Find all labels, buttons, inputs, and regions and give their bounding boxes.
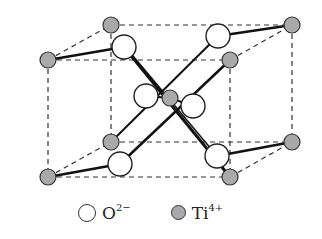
crystal-structure-diagram: [0, 0, 322, 200]
ti-atom: [222, 52, 238, 68]
legend-item-titanium: Ti4+: [171, 202, 224, 223]
o-atom: [134, 84, 158, 108]
o-atom: [181, 94, 205, 118]
ti-atom: [103, 17, 119, 33]
titanium-circle-icon: [171, 205, 186, 220]
o-atom: [112, 35, 136, 59]
oxygen-circle-icon: [78, 204, 96, 222]
o-atom: [205, 144, 229, 168]
ti-atom: [103, 134, 119, 150]
ti-atom-center: [162, 90, 178, 106]
ti-atom: [284, 134, 300, 150]
ti-atom: [40, 52, 56, 68]
ti-atom: [222, 169, 238, 185]
legend-label-titanium: Ti4+: [192, 202, 224, 223]
legend-label-oxygen: O2−: [102, 202, 131, 223]
legend-item-oxygen: O2−: [78, 202, 131, 223]
ti-atom: [40, 169, 56, 185]
center-titanium: [162, 90, 178, 106]
ti-atom: [284, 17, 300, 33]
o-atom: [108, 152, 132, 176]
o-atom: [206, 24, 230, 48]
legend: O2− Ti4+: [78, 202, 223, 223]
